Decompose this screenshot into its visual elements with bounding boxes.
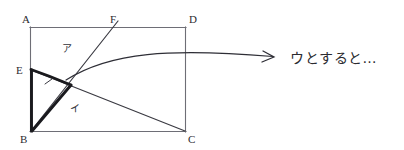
curved-arrow-shaft bbox=[66, 53, 273, 80]
curved-arrow bbox=[66, 51, 274, 80]
vertex-label-b: B bbox=[20, 133, 27, 145]
region-label-upper: ア bbox=[62, 43, 72, 54]
geometry-figure: A D B C E F ア イ ウとすると… bbox=[0, 0, 404, 150]
bold-triangle-ebp bbox=[31, 70, 71, 132]
region-label-lower: イ bbox=[70, 103, 80, 114]
vertex-label-d: D bbox=[189, 13, 197, 25]
vertex-label-c: C bbox=[188, 133, 195, 145]
bold-edge-ep bbox=[31, 70, 71, 86]
annotation-text: ウとすると… bbox=[290, 50, 377, 66]
vertex-label-e: E bbox=[16, 64, 23, 76]
vertex-label-a: A bbox=[22, 13, 30, 25]
bold-edge-pb bbox=[32, 85, 71, 131]
figure-canvas: A D B C E F ア イ ウとすると… bbox=[0, 0, 404, 150]
vertex-label-f: F bbox=[110, 13, 116, 25]
segment-bf bbox=[31, 21, 118, 131]
angle-tick-mark bbox=[45, 79, 52, 84]
